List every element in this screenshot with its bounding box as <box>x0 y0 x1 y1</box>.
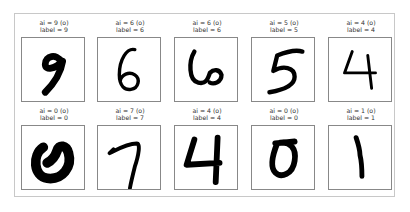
digit-image-9 <box>21 37 85 102</box>
digit-image-0 <box>21 125 85 190</box>
digit-image-7 <box>97 125 161 190</box>
label-caption: label = 1 <box>318 114 404 122</box>
label-caption: label = 0 <box>11 114 97 122</box>
digit-image-6 <box>174 37 238 102</box>
label-caption: label = 4 <box>164 114 250 122</box>
label-caption: label = 9 <box>11 26 97 34</box>
label-caption: label = 6 <box>87 26 173 34</box>
label-caption: label = 4 <box>318 26 404 34</box>
label-caption: label = 0 <box>241 114 327 122</box>
digit-image-4 <box>174 125 238 190</box>
label-caption: label = 6 <box>164 26 250 34</box>
digit-image-6 <box>97 37 161 102</box>
label-caption: label = 7 <box>87 114 173 122</box>
figure-frame: ai = 9 (o) label = 9 ai = 6 (o) label = … <box>14 13 395 197</box>
digit-image-5 <box>251 37 315 102</box>
label-caption: label = 5 <box>241 26 327 34</box>
digit-image-0 <box>251 125 315 190</box>
digit-image-4 <box>328 37 392 102</box>
digit-image-1 <box>328 125 392 190</box>
